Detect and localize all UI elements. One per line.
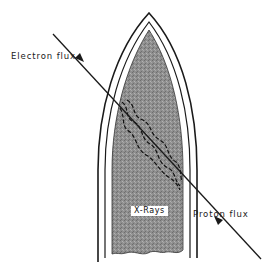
electron-flux-label: Electron flux bbox=[11, 51, 76, 61]
xrays-label: X-Rays bbox=[131, 206, 168, 216]
shell-diagram bbox=[0, 0, 279, 270]
electron-arrow-icon bbox=[75, 53, 84, 62]
proton-flux-label: Proton flux bbox=[193, 209, 249, 219]
